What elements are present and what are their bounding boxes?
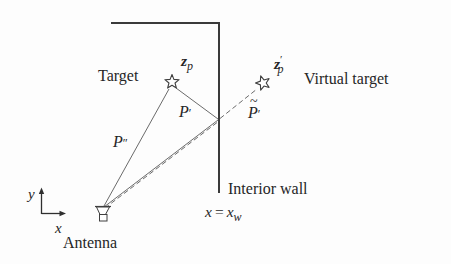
z-p-base: z: [180, 52, 187, 69]
interior-wall-label: Interior wall: [228, 180, 308, 197]
wall-equation-label: x=xw: [204, 203, 242, 224]
figure-container: y x Target zp z′p Virtual target P′ P″ ~…: [0, 0, 451, 264]
axis-y-arrowhead: [39, 188, 44, 195]
z-p-prime-subscript: p: [276, 62, 283, 76]
target-coordinate-label: zp: [180, 52, 193, 73]
antenna-label: Antenna: [63, 234, 117, 251]
axis-x-label: x: [54, 220, 62, 236]
target-star-icon: [165, 75, 179, 89]
target-label: Target: [98, 67, 139, 85]
svg-text:P′: P′: [247, 104, 261, 121]
axis-y-label: y: [26, 186, 35, 202]
axes-icon: [39, 188, 66, 217]
virtual-target-coordinate-label: z′p: [273, 53, 283, 76]
path-virtual-label: ~ P′: [247, 94, 261, 121]
virtual-target-label: Virtual target: [304, 70, 389, 88]
path-direct-label: P″: [112, 133, 128, 150]
z-p-subscript: p: [186, 59, 193, 73]
path-reflected-label: P′: [178, 103, 192, 120]
axis-x-arrowhead: [60, 211, 67, 216]
diagram-canvas: y x Target zp z′p Virtual target P′ P″ ~…: [0, 0, 451, 264]
antenna-icon: [95, 207, 111, 222]
virtual-target-star-icon: [254, 74, 272, 91]
